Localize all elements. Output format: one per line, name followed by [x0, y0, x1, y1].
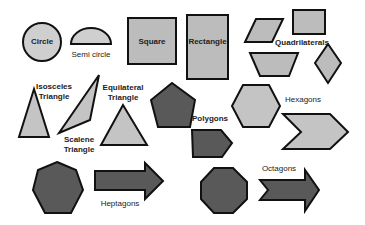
- trapezoid-shape: [250, 53, 298, 76]
- heptagons-label: Heptagons: [100, 199, 140, 209]
- rhombus-shape: [315, 44, 341, 83]
- shapes-diagram: [0, 0, 365, 225]
- scalene-label-line1: Scalene: [64, 135, 94, 144]
- square-label: Square: [128, 37, 176, 47]
- small-rectangle-shape: [293, 10, 325, 34]
- octagon-arrow-shape: [260, 170, 319, 211]
- pentagon-shape: [151, 83, 195, 127]
- rectangle-shape: [187, 15, 228, 79]
- equilateral-label-line1: Equilateral: [103, 83, 144, 92]
- heptagon-shape: [33, 162, 83, 213]
- pentagon-arrow-shape: [192, 130, 232, 157]
- rectangle-label: Rectangle: [185, 37, 230, 47]
- scalene-label: ScaleneTriangle: [60, 135, 98, 155]
- semicircle-shape: [71, 28, 111, 44]
- heptagon-arrow-shape: [95, 163, 163, 199]
- hexagon-shape: [232, 85, 280, 127]
- isosceles-label-line2: Triangle: [39, 92, 70, 101]
- equilateral-triangle-shape: [101, 105, 147, 145]
- octagon-shape: [201, 168, 247, 213]
- isosceles-label-line1: Isosceles: [36, 82, 72, 91]
- circle-label: Circle: [24, 37, 60, 47]
- hexagons-label: Hexagons: [283, 95, 323, 105]
- scalene-label-line2: Triangle: [64, 145, 95, 154]
- polygons-label: Polygons: [192, 114, 228, 124]
- semicircle-label: Semi circle: [68, 50, 114, 60]
- quadrilaterals-label: Quadrilaterals: [272, 38, 332, 48]
- equilateral-label-line2: Triangle: [108, 93, 139, 102]
- isosceles-label: IsoscelesTriangle: [34, 82, 74, 102]
- hexagon-chevron-shape: [283, 114, 348, 149]
- octagons-label: Octagons: [261, 164, 297, 174]
- equilateral-label: EquilateralTriangle: [101, 83, 145, 103]
